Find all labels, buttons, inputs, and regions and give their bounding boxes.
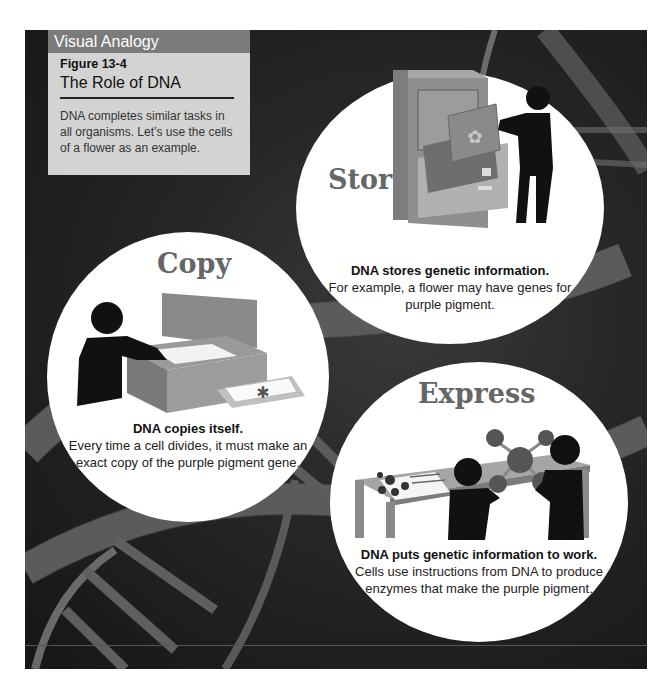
figure-description: DNA completes similar tasks in all organ…	[60, 108, 240, 156]
copier-icon: ✱	[67, 288, 307, 418]
store-caption: DNA stores genetic information. For exam…	[316, 262, 584, 313]
store-bubble: Store ✿ DNA stores genetic information. …	[296, 72, 604, 344]
express-caption-text: Cells use instructions from DNA to produ…	[355, 564, 603, 596]
figure-title: The Role of DNA	[60, 74, 234, 99]
file-cabinet-icon: ✿	[378, 58, 568, 228]
svg-text:✱: ✱	[256, 383, 269, 402]
copy-caption-bold: DNA copies itself.	[63, 420, 313, 437]
divider-line	[25, 645, 647, 646]
copy-caption: DNA copies itself. Every time a cell div…	[63, 420, 313, 471]
copy-caption-text: Every time a cell divides, it must make …	[69, 438, 307, 470]
molecule-model-icon	[350, 420, 600, 540]
visual-analogy-box: Visual Analogy Figure 13-4 The Role of D…	[48, 30, 250, 175]
figure-panel: Visual Analogy Figure 13-4 The Role of D…	[25, 30, 647, 669]
svg-text:✿: ✿	[467, 126, 482, 147]
copy-bubble: Copy ✱ DNA copies itself. Every time a c…	[47, 232, 329, 522]
figure-number: Figure 13-4	[60, 57, 250, 71]
express-caption: DNA puts genetic information to work. Ce…	[342, 546, 616, 597]
box-header: Visual Analogy	[48, 30, 250, 53]
store-caption-text: For example, a flower may have genes for…	[329, 280, 572, 312]
express-heading: Express	[418, 378, 535, 409]
copy-heading: Copy	[157, 248, 231, 279]
express-caption-bold: DNA puts genetic information to work.	[342, 546, 616, 563]
express-bubble: Express DNA puts genetic information to …	[330, 362, 628, 642]
store-caption-bold: DNA stores genetic information.	[316, 262, 584, 279]
